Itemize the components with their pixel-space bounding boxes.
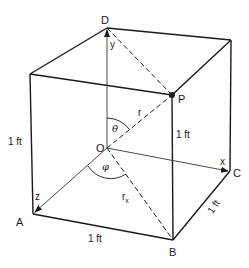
edge-P-to-top-right (172, 40, 231, 95)
cube-coordinate-diagram: D P O A B C y x z r rx θ φ 1 ft 1 ft 1 f… (0, 0, 249, 268)
label-axis-y: y (110, 39, 115, 50)
label-dim-left: 1 ft (8, 136, 22, 147)
edge-A-to-B (33, 214, 173, 240)
edge-left-vertical (30, 74, 33, 214)
edge-top-left-to-D (30, 28, 107, 74)
label-axis-x: x (220, 156, 225, 167)
label-O: O (96, 142, 105, 154)
axes (35, 30, 228, 212)
dashed-D-to-P (107, 28, 172, 95)
edge-top-left-to-P (30, 74, 172, 95)
label-A: A (16, 216, 24, 228)
label-C: C (233, 167, 241, 179)
theta-arc (107, 118, 130, 130)
label-theta: θ (112, 123, 118, 134)
label-dim-front-right: 1 ft (176, 129, 190, 140)
label-dim-bottom: 1 ft (88, 233, 102, 244)
x-axis (107, 148, 228, 171)
point-P-marker (169, 92, 175, 98)
label-rx: rx (122, 191, 129, 204)
edge-right-vertical (230, 40, 231, 171)
label-axis-z: z (35, 191, 40, 202)
dashed-O-to-B-rx (107, 148, 173, 240)
edge-P-to-B (172, 95, 173, 240)
dashed-O-to-P-r (107, 95, 172, 148)
label-D: D (101, 14, 109, 26)
cube-edges (30, 28, 231, 240)
label-P: P (178, 93, 185, 105)
edge-B-to-C (173, 171, 230, 240)
z-axis (35, 148, 107, 212)
label-dim-depth: 1 ft (205, 198, 222, 216)
label-r: r (138, 107, 142, 118)
label-phi: φ (102, 161, 109, 172)
label-B: B (169, 246, 176, 258)
dashed-lines (107, 28, 173, 240)
edge-D-to-top-right (107, 28, 231, 40)
